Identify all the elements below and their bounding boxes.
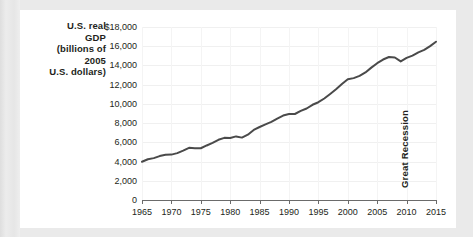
x-axis-tick-label: 2015: [426, 207, 446, 217]
x-axis-tick-label: 1975: [191, 207, 211, 217]
y-axis-tick-label: 10,000: [109, 99, 137, 109]
x-axis-tick-label: 1995: [308, 207, 328, 217]
y-axis-title: U.S. real GDP (billions of 2005 U.S. dol…: [20, 20, 106, 78]
y-axis-title-line-3: (billions of: [20, 43, 106, 55]
y-axis-tick-label: 0: [132, 195, 137, 205]
y-axis-tick-label: 16,000: [109, 41, 137, 51]
y-axis-tick-label: $18,000: [104, 22, 137, 32]
figure-card: U.S. real GDP (billions of 2005 U.S. dol…: [20, 10, 456, 228]
plot-area: 02,0004,0006,0008,00010,00012,00014,0001…: [142, 27, 436, 200]
x-axis-tick-label: 1990: [279, 207, 299, 217]
x-axis-line: [142, 200, 436, 201]
x-axis-tick-label: 1970: [161, 207, 181, 217]
gdp-series-line: [142, 27, 436, 200]
series-path: [142, 42, 436, 162]
x-axis-tick: [436, 200, 437, 204]
x-axis-tick-label: 2005: [367, 207, 387, 217]
y-axis-title-line-5: U.S. dollars): [20, 66, 106, 78]
y-axis-tick-label: 4,000: [114, 157, 137, 167]
y-axis-tick-label: 6,000: [114, 137, 137, 147]
y-axis-tick-label: 12,000: [109, 80, 137, 90]
y-axis-title-line-1: U.S. real: [20, 20, 106, 32]
x-axis-tick-label: 1980: [220, 207, 240, 217]
annotation-great-recession: Great Recession: [399, 110, 410, 188]
x-axis-tick-label: 1965: [132, 207, 152, 217]
gridline-vertical: [436, 27, 437, 200]
y-axis-title-line-2: GDP: [20, 32, 106, 44]
x-axis-tick-label: 2000: [338, 207, 358, 217]
gdp-line-chart: U.S. real GDP (billions of 2005 U.S. dol…: [20, 10, 456, 228]
x-axis-tick-label: 1985: [250, 207, 270, 217]
y-axis-tick-label: 8,000: [114, 118, 137, 128]
y-axis-tick-label: 2,000: [114, 176, 137, 186]
y-axis-tick-label: 14,000: [109, 60, 137, 70]
y-axis-title-line-4: 2005: [20, 55, 106, 67]
x-axis-tick-label: 2010: [397, 207, 417, 217]
